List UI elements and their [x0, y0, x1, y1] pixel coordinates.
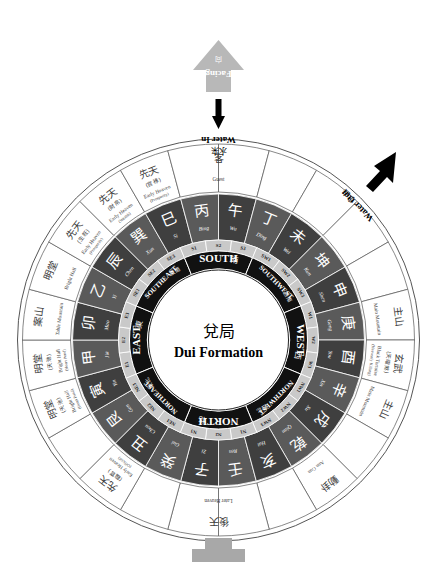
formation-title-english: Dui Formation: [174, 345, 263, 360]
compass-svg: 明堂(天池)Bright Hall(Heart Pond)案山Table Mou…: [0, 0, 437, 586]
mountain-pinyin: Jia: [103, 351, 110, 359]
plinth-foot: [192, 549, 245, 562]
luopan-diagram: 明堂(天池)Bright Hall(Heart Pond)案山Table Mou…: [0, 0, 437, 586]
mountain-chinese: 壬: [227, 459, 244, 479]
mountain-chinese: 庚: [338, 314, 358, 331]
mountain-chinese: 酉: [338, 348, 358, 365]
cardinal-chinese: 西: [293, 351, 303, 361]
cardinal-chinese: 北: [198, 414, 208, 424]
facing-arrow-shape: [193, 40, 244, 92]
water-in-english: Water In: [201, 135, 236, 145]
water-in-arrow: [212, 99, 225, 129]
facing-english: Facing: [205, 69, 231, 79]
mountain-chinese: 子: [193, 459, 210, 479]
sub-sector-label: E2: [121, 337, 126, 343]
water-in-chinese: 水来: [211, 146, 227, 156]
mountain-chinese: 甲: [79, 348, 99, 365]
water-out-arrow: [366, 152, 396, 192]
sub-sector-label: S2: [216, 243, 222, 248]
outer-chinese-label: 後天: [209, 516, 229, 528]
mountain-pinyin: Wu: [229, 225, 237, 232]
mountain-chinese: 丙: [193, 201, 210, 221]
mountain-pinyin: You: [327, 350, 334, 359]
mountain-chinese: 卯: [79, 314, 99, 331]
sub-sector-label: W2: [311, 336, 316, 344]
formation-title-chinese: 兌局: [203, 322, 235, 341]
outer-english-label: Later Heaven: [204, 498, 232, 504]
sub-sector-label: N2: [215, 432, 222, 437]
outer-english-label: Guest: [212, 176, 225, 182]
facing-chinese: 向: [215, 55, 222, 64]
base-plinth: [192, 538, 245, 562]
mountain-chinese: 午: [227, 201, 244, 221]
facing-arrow: 向Facing: [193, 40, 244, 92]
mountain-pinyin: Ren: [228, 448, 238, 455]
